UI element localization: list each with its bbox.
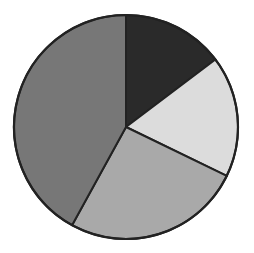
pie-chart <box>0 0 254 253</box>
pie-chart-svg <box>0 0 254 253</box>
